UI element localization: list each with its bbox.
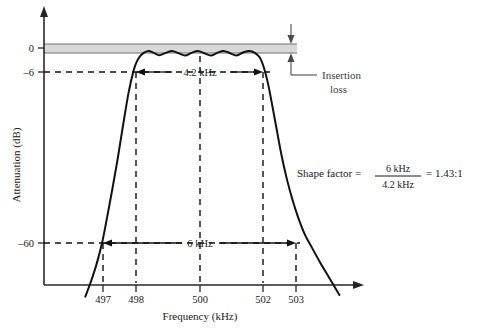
y-axis-arrowhead <box>40 6 48 17</box>
shape-factor-formula: Shape factor = 6 kHz 4.2 kHz = 1.43:1 <box>297 163 463 190</box>
formula-denominator: 4.2 kHz <box>382 179 414 190</box>
x-ticks <box>103 285 296 292</box>
arrowhead-up-insertion <box>288 53 295 62</box>
arrowhead-left-42 <box>136 69 145 76</box>
arrowhead-right-6 <box>287 240 296 247</box>
insertion-loss-label-line2: loss <box>330 83 347 95</box>
filter-response-chart: 4.2 kHz 6 kHz Insertion loss 0 –6 <box>0 0 483 331</box>
y-tick-label-0: 0 <box>29 43 34 54</box>
construction-dashed-lines <box>44 56 300 283</box>
arrowhead-left-6 <box>103 240 112 247</box>
formula-numerator: 6 kHz <box>386 163 411 174</box>
filter-response-figure: 4.2 kHz 6 kHz Insertion loss 0 –6 <box>0 0 483 331</box>
y-tick-label-minus6: –6 <box>23 67 35 78</box>
bandwidth-60db-label: 6 kHz <box>187 238 213 249</box>
x-axis-title: Frequency (kHz) <box>163 310 238 323</box>
insertion-loss-label-line1: Insertion <box>322 69 362 81</box>
x-tick-label-500: 500 <box>192 294 208 305</box>
x-tick-label-503: 503 <box>288 294 304 305</box>
x-tick-label-497: 497 <box>95 294 111 305</box>
x-tick-label-498: 498 <box>128 294 144 305</box>
formula-result: = 1.43:1 <box>426 167 463 179</box>
y-axis-title: Attenuation (dB) <box>10 127 23 202</box>
insertion-loss-callout: Insertion loss <box>288 24 362 95</box>
x-tick-label-502: 502 <box>255 294 271 305</box>
bandwidth-6db-dimension: 4.2 kHz <box>136 67 263 78</box>
arrowhead-right-42 <box>254 69 263 76</box>
y-tick-label-minus60: –60 <box>17 238 34 249</box>
bandwidth-60db-dimension: 6 kHz <box>103 238 296 249</box>
arrowhead-down-insertion <box>288 35 295 44</box>
x-tick-labels: 497 498 500 502 503 <box>95 294 304 305</box>
y-ticks <box>38 48 44 243</box>
bandwidth-6db-label: 4.2 kHz <box>183 67 217 78</box>
formula-lhs: Shape factor = <box>297 167 361 179</box>
x-axis-arrowhead <box>353 281 364 289</box>
